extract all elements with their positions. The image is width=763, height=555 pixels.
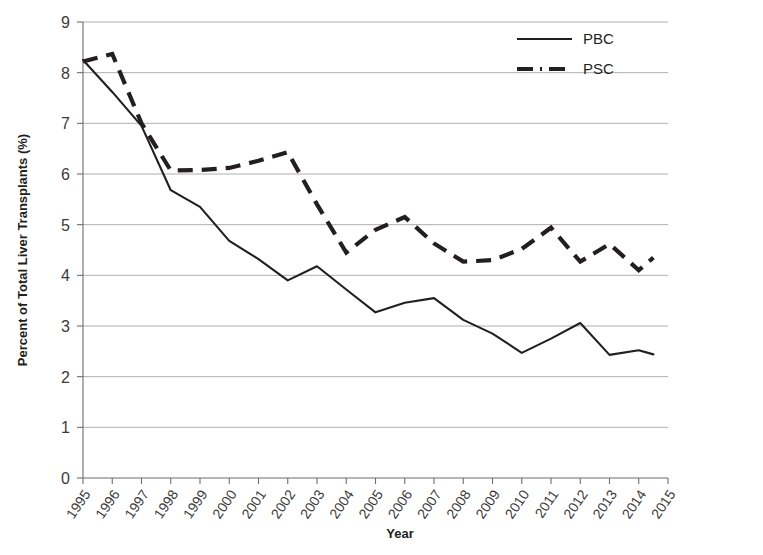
x-axis-tick-labels: 1995199619971998199920002001200220032004…	[63, 487, 679, 522]
x-tick-label: 2006	[385, 487, 416, 522]
gridlines	[77, 22, 668, 478]
x-tick-label: 2010	[502, 487, 533, 522]
line-chart: 0123456789 19951996199719981999200020012…	[0, 0, 763, 555]
y-axis-tick-labels: 0123456789	[61, 14, 70, 487]
x-tick-label: 2012	[560, 487, 591, 522]
x-tick-label: 2004	[326, 487, 357, 522]
x-tick-label: 1998	[151, 487, 182, 522]
x-tick-label: 2007	[414, 487, 445, 522]
x-tick-label: 2015	[648, 487, 679, 522]
y-tick-label: 8	[61, 65, 70, 82]
y-axis-title: Percent of Total Liver Transplants (%)	[15, 134, 30, 366]
chart-legend: PBC PSC	[517, 30, 614, 77]
y-tick-label: 7	[61, 115, 70, 132]
x-tick-label: 2008	[443, 487, 474, 522]
x-tick-label: 2013	[589, 487, 620, 522]
y-tick-label: 3	[61, 318, 70, 335]
y-tick-label: 2	[61, 369, 70, 386]
x-axis-ticks	[83, 478, 668, 484]
series-line-psc	[83, 54, 653, 270]
series-line-pbc	[83, 60, 653, 355]
x-tick-label: 1995	[63, 487, 94, 522]
x-tick-label: 2001	[238, 487, 269, 522]
legend-label-pbc: PBC	[583, 30, 614, 47]
x-tick-label: 2000	[209, 487, 240, 522]
legend-label-psc: PSC	[583, 60, 614, 77]
chart-container: 0123456789 19951996199719981999200020012…	[0, 0, 763, 555]
x-tick-label: 2011	[531, 487, 561, 521]
x-tick-label: 2002	[268, 487, 299, 522]
x-tick-label: 1997	[121, 487, 152, 522]
y-tick-label: 1	[61, 419, 70, 436]
x-tick-label: 1999	[180, 487, 211, 522]
x-axis-title: Year	[386, 526, 413, 541]
y-tick-label: 4	[61, 267, 70, 284]
y-tick-label: 5	[61, 217, 70, 234]
x-tick-label: 1996	[92, 487, 123, 522]
x-tick-label: 2009	[472, 487, 503, 522]
y-tick-label: 9	[61, 14, 70, 31]
y-tick-label: 6	[61, 166, 70, 183]
x-tick-label: 2014	[619, 487, 650, 522]
x-tick-label: 2003	[297, 487, 328, 522]
x-tick-label: 2005	[355, 487, 386, 522]
y-tick-label: 0	[61, 470, 70, 487]
